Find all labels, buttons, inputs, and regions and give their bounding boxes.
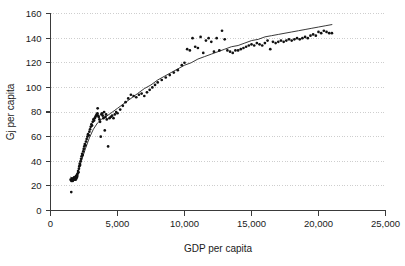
chart-figure: 05,00010,00015,00020,00025,000 020406080…	[0, 0, 405, 266]
svg-text:10,000: 10,000	[170, 218, 199, 229]
y-axis-title: Gj per capita	[5, 83, 16, 140]
svg-text:40: 40	[31, 156, 42, 167]
svg-text:60: 60	[31, 131, 42, 142]
fitted-curve	[71, 25, 332, 179]
svg-text:160: 160	[26, 8, 42, 19]
svg-text:80: 80	[31, 106, 42, 117]
svg-text:25,000: 25,000	[371, 218, 400, 229]
x-axis-tick-labels: 05,00010,00015,00020,00025,000	[48, 218, 400, 229]
svg-text:100: 100	[26, 82, 42, 93]
svg-text:20: 20	[31, 180, 42, 191]
scatter-plot: 05,00010,00015,00020,00025,000 020406080…	[0, 0, 405, 266]
x-axis-title: GDP per capita	[184, 243, 253, 254]
svg-text:5,000: 5,000	[106, 218, 130, 229]
x-axis-ticks	[51, 211, 386, 216]
y-axis-tick-labels: 020406080100120140160	[26, 8, 42, 216]
svg-text:140: 140	[26, 33, 42, 44]
scatter-points	[69, 29, 333, 193]
svg-text:20,000: 20,000	[304, 218, 333, 229]
svg-text:15,000: 15,000	[237, 218, 266, 229]
svg-text:0: 0	[48, 218, 53, 229]
svg-text:0: 0	[36, 205, 41, 216]
gridlines	[51, 14, 386, 186]
y-axis-ticks	[46, 14, 51, 211]
svg-text:120: 120	[26, 57, 42, 68]
